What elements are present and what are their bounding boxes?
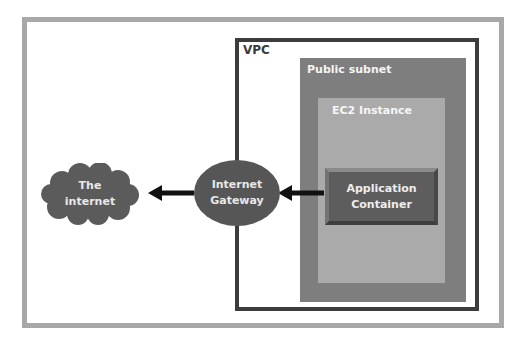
arrow-left-icon [148, 185, 194, 201]
vpc-label: VPC [243, 43, 270, 57]
ec2-instance-label: EC2 Instance [332, 104, 412, 117]
arrow-left-icon [278, 185, 324, 201]
the-internet-label: The internet [40, 163, 140, 225]
internet-gateway-label: Internet Gateway [210, 177, 264, 209]
application-container-label: Application Container [346, 181, 416, 213]
internet-gateway-node: Internet Gateway [194, 160, 280, 226]
public-subnet-label: Public subnet [307, 63, 391, 76]
application-container-box: Application Container [325, 168, 438, 225]
